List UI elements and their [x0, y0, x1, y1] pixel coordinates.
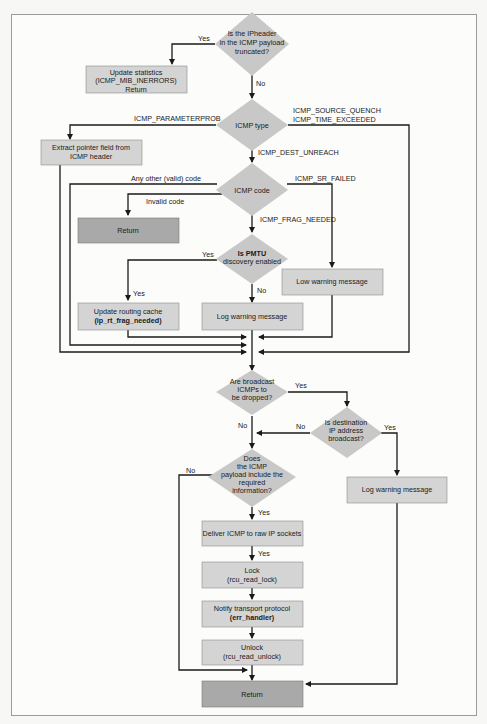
label-payload-no: No	[186, 466, 195, 475]
label-routing-yes: Yes	[133, 289, 145, 298]
label-dest-no: No	[296, 422, 305, 431]
decision-truncated: Is the IPheaderin the ICMP payloadtrunca…	[215, 12, 289, 76]
edge-bcast-yes	[288, 392, 347, 406]
edge-routing-merge	[128, 330, 246, 337]
svg-text:Update routing cache: Update routing cache	[94, 307, 162, 316]
svg-text:Notify transport protocol: Notify transport protocol	[214, 604, 291, 613]
decision-icmp-type: ICMP type	[216, 99, 288, 151]
svg-text:ICMP type: ICMP type	[235, 121, 268, 130]
label-payload-yes: Yes	[258, 508, 270, 517]
decision-pmtu: Is PMTU discovery enabled	[216, 234, 288, 284]
label-pmtu-yes: Yes	[202, 250, 214, 259]
box-low-warning: Low warning message	[282, 269, 383, 295]
box-return-final: Return	[202, 681, 303, 707]
box-notify-transport: Notify transport protocol (err_handler)	[202, 601, 303, 627]
label-time-exceeded: ICMP_TIME_EXCEEDED	[293, 115, 376, 124]
decision-icmp-code: ICMP code	[216, 163, 288, 216]
box-extract-pointer: Extract pointer field fromICMP header	[41, 140, 142, 165]
edge-logwarn2-return	[306, 498, 397, 684]
label-invalid-code: Invalid code	[146, 197, 184, 206]
decision-broadcast-drop: Are broadcastICMPs tobe dropped?	[216, 370, 288, 415]
edge-sr-failed	[287, 184, 332, 267]
label-bcast-yes: Yes	[295, 381, 307, 390]
label-sr-failed: ICMP_SR_FAILED	[295, 174, 356, 183]
label-truncated-no: No	[256, 79, 265, 88]
edge-dest-yes	[380, 433, 397, 475]
box-log-warning-broadcast: Log warning message	[347, 477, 447, 503]
label-frag-needed: ICMP_FRAG_NEEDED	[260, 215, 336, 224]
edge-truncated-yes	[172, 44, 215, 64]
label-truncated-yes: Yes	[198, 34, 210, 43]
box-log-warning-pmtu: Log warning message	[202, 303, 303, 330]
edge-parameterprob	[70, 125, 216, 139]
label-source-quench: ICMP_SOURCE_QUENCH	[293, 106, 381, 115]
label-dest-unreach: ICMP_DEST_UNREACH	[258, 148, 339, 157]
svg-text:(err_handler): (err_handler)	[230, 613, 275, 622]
box-update-routing: Update routing cache (ip_rt_frag_needed)	[78, 303, 179, 330]
icmp-error-flowchart: Is the IPheaderin the ICMP payloadtrunca…	[0, 0, 487, 724]
label-dest-yes: Yes	[384, 423, 396, 432]
svg-text:ICMP code: ICMP code	[234, 186, 269, 195]
svg-text:Is destinationIP addressbroadc: Is destinationIP addressbroadcast?	[325, 418, 367, 443]
svg-text:discovery enabled: discovery enabled	[223, 257, 281, 266]
box-deliver-raw: Deliver ICMP to raw IP sockets	[202, 521, 303, 546]
svg-text:Log warning message: Log warning message	[362, 485, 432, 494]
svg-text:Return: Return	[117, 226, 139, 235]
label-pmtu-no: No	[257, 286, 266, 295]
label-any-other-code: Any other (valid) code	[131, 174, 201, 183]
label-deliver-yes: Yes	[258, 549, 270, 558]
decision-dest-broadcast: Is destinationIP addressbroadcast?	[310, 407, 382, 458]
svg-text:Log warning message: Log warning message	[217, 312, 287, 321]
box-return-invalid: Return	[78, 218, 179, 243]
svg-text:Return: Return	[241, 690, 263, 699]
svg-text:(ip_rt_frag_needed): (ip_rt_frag_needed)	[94, 316, 162, 325]
box-unlock: Unlock(rcu_read_unlock)	[202, 640, 303, 665]
decision-payload-info: Doesthe ICMPpayload include therequiredi…	[208, 449, 296, 507]
svg-text:Low warning message: Low warning message	[296, 277, 368, 286]
box-lock: Lock(rcu_read_lock)	[202, 562, 303, 588]
box-update-statistics: Update statistics(ICMP_MIB_INERRORS)Retu…	[86, 66, 187, 94]
label-bcast-no: No	[238, 421, 247, 430]
svg-text:Deliver ICMP to raw IP sockets: Deliver ICMP to raw IP sockets	[203, 529, 302, 538]
label-parameterprob: ICMP_PARAMETERPROB	[134, 114, 221, 123]
